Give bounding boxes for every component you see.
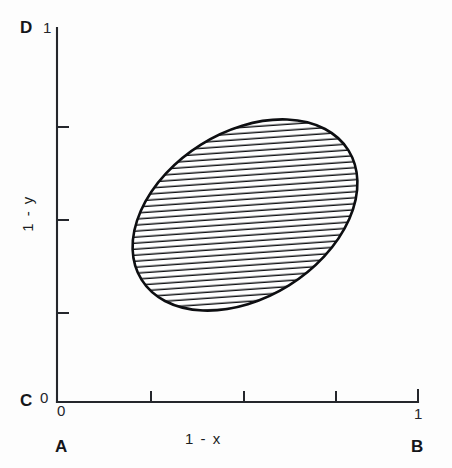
figure-panel: D C A B 1 0 0 1 1 - y 1 - x [0,0,452,468]
x-axis-zero-tick-label: 0 [57,402,65,419]
x-axis-title: 1 - x [185,430,222,447]
y-axis-ticks [57,127,68,313]
corner-label-a: A [55,437,68,457]
corner-label-b: B [411,437,424,457]
corner-label-d: D [20,18,33,38]
y-axis-title: 1 - y [19,184,36,244]
plot-svg [0,0,452,468]
x-axis-max-tick-label: 1 [414,405,422,422]
y-axis-zero-tick-label: 0 [40,389,48,406]
y-axis-max-tick-label: 1 [43,19,51,36]
x-axis-ticks [151,390,418,402]
hatched-ellipse-region [98,80,393,350]
corner-label-c: C [20,391,33,411]
